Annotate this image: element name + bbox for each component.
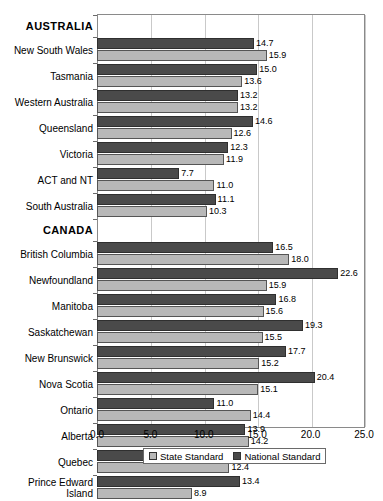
bar-national[interactable]	[97, 242, 273, 253]
bar-state[interactable]	[97, 488, 192, 499]
category-label: Alberta	[0, 423, 93, 449]
bar-value-label: 18.0	[289, 254, 309, 265]
category-label: British Columbia	[0, 241, 93, 267]
bar-national[interactable]	[97, 294, 276, 305]
bar-national[interactable]	[97, 346, 286, 357]
x-axis-tick-label: 5.0	[143, 429, 157, 440]
bar-value-label: 13.2	[238, 90, 258, 101]
x-axis-tick-label: 0.0	[90, 429, 104, 440]
bar-value-label: 15.0	[257, 64, 277, 75]
bar-value-label: 11.9	[224, 154, 243, 165]
bar-row: 22.615.9	[97, 267, 364, 293]
category-label: Newfoundland	[0, 267, 93, 293]
bar-value-label: 13.4	[240, 476, 260, 487]
bar-state[interactable]	[97, 102, 238, 113]
category-label: Tasmania	[0, 63, 93, 89]
bar-value-label: 11.0	[214, 398, 233, 409]
bar-state[interactable]	[97, 254, 289, 265]
bar-national[interactable]	[97, 38, 254, 49]
group-header-label: CANADA	[0, 219, 93, 241]
bar-state[interactable]	[97, 50, 267, 61]
bar-national[interactable]	[97, 268, 338, 279]
bar-national[interactable]	[97, 320, 303, 331]
x-axis-tick-label: 20.0	[301, 429, 320, 440]
category-label: South Australia	[0, 193, 93, 219]
group-header-row	[97, 219, 364, 241]
bar-state[interactable]	[97, 206, 207, 217]
bar-value-label: 16.5	[273, 242, 293, 253]
bar-value-label: 11.1	[216, 194, 235, 205]
category-label: ACT and NT	[0, 167, 93, 193]
bar-value-label: 13.2	[238, 102, 258, 113]
group-header-row	[97, 15, 364, 37]
bar-value-label: 11.0	[214, 180, 233, 191]
legend-swatch-icon	[149, 452, 157, 460]
bar-national[interactable]	[97, 476, 240, 487]
x-axis-tick-label: 10.0	[194, 429, 213, 440]
bar-row: 19.315.5	[97, 319, 364, 345]
bar-value-label: 17.7	[286, 346, 306, 357]
bar-value-label: 13.6	[242, 76, 262, 87]
bar-value-label: 12.3	[228, 142, 248, 153]
bar-row: 11.014.4	[97, 397, 364, 423]
chart-legend: State StandardNational Standard	[143, 448, 326, 464]
bar-value-label: 12.6	[232, 128, 252, 139]
bar-national[interactable]	[97, 64, 257, 75]
bar-state[interactable]	[97, 384, 258, 395]
bar-value-label: 16.8	[276, 294, 296, 305]
legend-label: National Standard	[244, 451, 320, 462]
bar-row: 16.815.6	[97, 293, 364, 319]
bar-row: 7.711.0	[97, 167, 364, 193]
legend-item[interactable]: National Standard	[233, 451, 320, 462]
bar-row: 14.612.6	[97, 115, 364, 141]
bar-value-label: 14.7	[254, 38, 274, 49]
x-axis: 0.05.010.015.020.025.0	[97, 429, 365, 443]
bar-state[interactable]	[97, 76, 242, 87]
category-label: Victoria	[0, 141, 93, 167]
legend-label: State Standard	[160, 451, 223, 462]
bar-national[interactable]	[97, 168, 179, 179]
bar-row: 13.213.2	[97, 89, 364, 115]
bar-state[interactable]	[97, 280, 267, 291]
bar-national[interactable]	[97, 142, 228, 153]
bar-row: 12.311.9	[97, 141, 364, 167]
bar-national[interactable]	[97, 194, 216, 205]
bar-value-label: 8.9	[192, 488, 207, 499]
category-label: Prince Edward Island	[0, 475, 93, 501]
bar-state[interactable]	[97, 128, 232, 139]
bar-row: 14.715.9	[97, 37, 364, 63]
bar-state[interactable]	[97, 180, 214, 191]
bar-state[interactable]	[97, 306, 264, 317]
group-header-label: AUSTRALIA	[0, 15, 93, 37]
bar-state[interactable]	[97, 154, 224, 165]
bar-national[interactable]	[97, 398, 214, 409]
bar-national[interactable]	[97, 372, 315, 383]
axis-tick	[93, 219, 97, 220]
bar-value-label: 15.6	[264, 306, 284, 317]
bar-value-label: 14.6	[253, 116, 273, 127]
bar-value-label: 15.5	[263, 332, 283, 343]
bar-value-label: 20.4	[315, 372, 335, 383]
gridline	[365, 15, 366, 427]
bar-national[interactable]	[97, 116, 253, 127]
category-label: Ontario	[0, 397, 93, 423]
bar-national[interactable]	[97, 90, 238, 101]
category-label: Queensland	[0, 115, 93, 141]
legend-item[interactable]: State Standard	[149, 451, 223, 462]
bar-value-label: 22.6	[338, 268, 358, 279]
bar-state[interactable]	[97, 332, 263, 343]
category-label: Quebec	[0, 449, 93, 475]
category-label: New South Wales	[0, 37, 93, 63]
bar-state[interactable]	[97, 410, 251, 421]
bar-row: 15.013.6	[97, 63, 364, 89]
bar-row: 16.518.0	[97, 241, 364, 267]
legend-swatch-icon	[233, 452, 241, 460]
category-axis-labels: AUSTRALIANew South WalesTasmaniaWestern …	[0, 15, 93, 501]
category-label: Nova Scotia	[0, 371, 93, 397]
bar-value-label: 15.9	[267, 50, 287, 61]
category-label: Saskatchewan	[0, 319, 93, 345]
bar-value-label: 7.7	[179, 168, 194, 179]
bar-state[interactable]	[97, 358, 259, 369]
category-label: New Brunswick	[0, 345, 93, 371]
